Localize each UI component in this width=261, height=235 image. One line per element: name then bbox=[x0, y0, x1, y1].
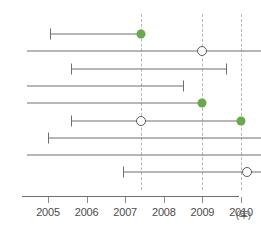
range-row bbox=[0, 164, 261, 180]
range-line bbox=[27, 85, 183, 86]
axis-label-2007: 2007 bbox=[113, 206, 137, 218]
range-cap-end bbox=[183, 80, 184, 91]
axis-tick-2009 bbox=[202, 197, 203, 203]
range-line bbox=[27, 103, 203, 104]
range-line bbox=[123, 172, 261, 173]
axis-tick-2008 bbox=[164, 197, 165, 203]
range-row bbox=[0, 78, 261, 94]
axis-tick-2006 bbox=[87, 197, 88, 203]
range-line bbox=[27, 51, 261, 52]
range-line bbox=[27, 155, 261, 156]
data-point-filled bbox=[198, 99, 207, 108]
range-line bbox=[71, 68, 225, 69]
range-row bbox=[0, 95, 261, 111]
x-axis-unit-label: (年) bbox=[236, 208, 251, 221]
x-axis-line bbox=[22, 196, 239, 197]
axis-label-2008: 2008 bbox=[152, 206, 176, 218]
range-row bbox=[0, 130, 261, 146]
data-point-open bbox=[197, 46, 207, 56]
range-row bbox=[0, 43, 261, 59]
range-row bbox=[0, 26, 261, 42]
range-line bbox=[71, 120, 241, 121]
plot-area bbox=[0, 0, 261, 196]
data-point-open bbox=[242, 167, 252, 177]
range-chart: 200520062007200820092010 (年) bbox=[0, 0, 261, 235]
data-point-filled bbox=[237, 116, 246, 125]
data-point-filled bbox=[136, 30, 145, 39]
range-line bbox=[50, 34, 141, 35]
range-cap-start bbox=[48, 132, 49, 143]
range-line bbox=[48, 137, 261, 138]
range-cap-start bbox=[71, 115, 72, 126]
axis-tick-2007 bbox=[125, 197, 126, 203]
axis-label-2006: 2006 bbox=[75, 206, 99, 218]
data-point-open bbox=[136, 116, 146, 126]
range-cap-end bbox=[226, 63, 227, 74]
axis-tick-2010 bbox=[241, 197, 242, 203]
axis-label-2005: 2005 bbox=[36, 206, 60, 218]
range-row bbox=[0, 61, 261, 77]
axis-label-2009: 2009 bbox=[191, 206, 215, 218]
range-cap-start bbox=[123, 167, 124, 178]
range-row bbox=[0, 147, 261, 163]
axis-tick-2005 bbox=[48, 197, 49, 203]
range-cap-start bbox=[50, 29, 51, 40]
range-cap-start bbox=[71, 63, 72, 74]
range-row bbox=[0, 113, 261, 129]
